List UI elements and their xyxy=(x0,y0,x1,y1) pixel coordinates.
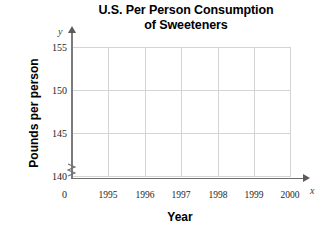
chart-title: U.S. Per Person Consumption of Sweetener… xyxy=(70,3,302,33)
y-axis-title: Pounds per person xyxy=(27,38,41,188)
plot-area xyxy=(72,47,291,177)
x-tick-label-1995: 1995 xyxy=(88,190,128,200)
y-tick-label-origin: 0 xyxy=(33,189,67,200)
gridline-vertical-1996 xyxy=(145,47,146,177)
gridline-vertical-2000 xyxy=(290,47,291,177)
x-tick-label-1997: 1997 xyxy=(161,190,201,200)
x-axis-variable-label: x xyxy=(310,185,314,196)
y-axis-line xyxy=(71,32,73,179)
x-axis-title: Year xyxy=(75,210,285,224)
x-axis-arrow-icon xyxy=(303,174,310,182)
y-tick-label-145: 145 xyxy=(33,128,67,139)
chart-title-line-1: U.S. Per Person Consumption xyxy=(70,3,302,18)
x-tick-label-2000: 2000 xyxy=(270,190,310,200)
chart-figure: U.S. Per Person Consumption of Sweetener… xyxy=(0,0,325,232)
y-tick-label-155: 155 xyxy=(33,42,67,53)
x-tick-label-1998: 1998 xyxy=(198,190,238,200)
gridline-vertical-1997 xyxy=(181,47,182,177)
y-axis-arrow-icon xyxy=(68,26,76,33)
chart-title-line-2: of Sweeteners xyxy=(70,18,302,33)
x-tick-label-1996: 1996 xyxy=(125,190,165,200)
gridline-vertical-1995 xyxy=(108,47,109,177)
gridline-vertical-1998 xyxy=(218,47,219,177)
y-tick-label-150: 150 xyxy=(33,85,67,96)
y-tick-label-140: 140 xyxy=(33,171,67,182)
y-axis-variable-label: y xyxy=(58,26,62,37)
gridline-vertical-1999 xyxy=(254,47,255,177)
x-axis-line xyxy=(71,178,305,180)
x-tick-label-1999: 1999 xyxy=(234,190,274,200)
